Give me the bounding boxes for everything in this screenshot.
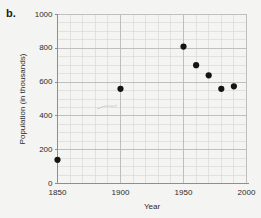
data-point bbox=[54, 157, 60, 163]
y-tick-label: 400 bbox=[25, 112, 53, 120]
y-tick-label: 200 bbox=[25, 146, 53, 154]
figure-panel: b. Population (in thousands) Year 020040… bbox=[0, 0, 260, 218]
y-tick-label: 800 bbox=[25, 44, 53, 52]
y-tick-label: 600 bbox=[25, 78, 53, 86]
x-axis-title: Year bbox=[57, 203, 247, 211]
data-point bbox=[180, 44, 186, 50]
data-point bbox=[218, 86, 224, 92]
scan-artifact bbox=[97, 105, 117, 109]
y-tick-label: 1000 bbox=[25, 11, 53, 19]
y-tick-label: 0 bbox=[25, 180, 53, 188]
data-point bbox=[206, 72, 212, 78]
x-tick-label: 1850 bbox=[41, 189, 75, 197]
data-point bbox=[231, 83, 237, 89]
data-point bbox=[193, 62, 199, 68]
x-tick-label: 1950 bbox=[167, 189, 201, 197]
x-tick-label: 2000 bbox=[230, 189, 261, 197]
data-point bbox=[117, 86, 123, 92]
x-tick-label: 1900 bbox=[104, 189, 138, 197]
